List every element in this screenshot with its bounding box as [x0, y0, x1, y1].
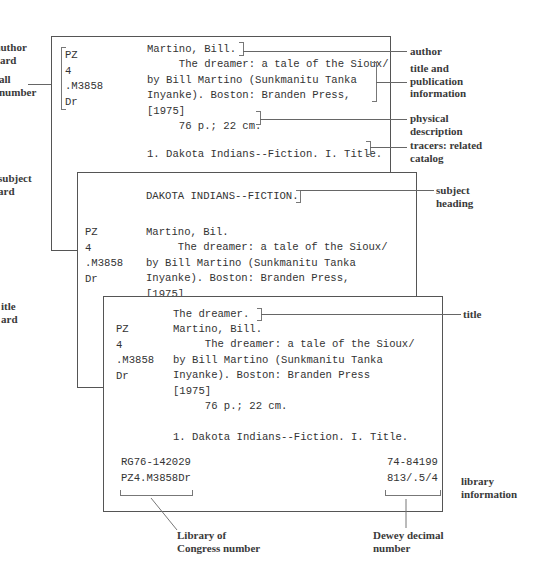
label-dewey-decimal: Dewey decimal number — [373, 529, 444, 554]
bottom-connectors — [0, 0, 547, 573]
label-loc-number: Library of Congress number — [177, 529, 260, 554]
